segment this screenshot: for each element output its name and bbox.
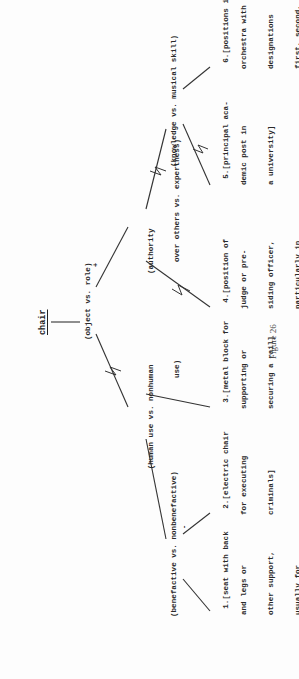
leaf-4: 4.[position of judge or pre- siding offi… bbox=[213, 239, 299, 321]
leaf-line: for executing bbox=[240, 431, 249, 527]
leaf-line: [positions in bbox=[222, 0, 230, 54]
edge-nonbenefactive bbox=[183, 513, 210, 534]
leaf-number: 2. bbox=[222, 500, 230, 509]
leaf-line: supporting or bbox=[240, 321, 249, 421]
nonbenefactive-minus-marker: - bbox=[180, 525, 189, 529]
leaf-line: a university] bbox=[267, 101, 276, 197]
leaf-number: 4. bbox=[222, 294, 230, 303]
distinction-benefactive: (benefactive vs. nonbenefactive) bbox=[170, 471, 179, 617]
leaf-line: usually for bbox=[294, 531, 299, 627]
distinction-authority-vs-expertness: (authority over others vs. expertness) bbox=[130, 139, 199, 274]
edge-benefactive bbox=[183, 579, 210, 611]
leaf-line: criminals] bbox=[267, 431, 276, 527]
leaf-line: judge or pre- bbox=[240, 239, 249, 321]
leaf-6: 6.[positions in orchestra with designati… bbox=[213, 0, 299, 81]
leaf-line: demic post in bbox=[240, 101, 249, 197]
leaf-number: 6. bbox=[222, 54, 230, 63]
leaf-line: and legs or bbox=[240, 531, 249, 627]
leaf-line: [electric chair bbox=[222, 431, 230, 499]
leaf-number: 5. bbox=[222, 170, 230, 179]
leaf-line: other support, bbox=[267, 531, 276, 627]
edge-musical bbox=[183, 67, 210, 89]
leaf-line: orchestra with bbox=[240, 0, 249, 81]
leaf-line: siding officer, bbox=[267, 239, 276, 321]
role-plus-marker: + bbox=[92, 263, 101, 267]
rotated-page: chair (object vs. role) + (human use vs.… bbox=[0, 0, 299, 679]
cross-mark-object bbox=[105, 367, 121, 375]
leaf-line: [seat with back bbox=[222, 531, 230, 599]
leaf-line: [position of bbox=[222, 239, 230, 294]
leaf-2: 2.[electric chair for executing criminal… bbox=[213, 431, 294, 527]
leaf-3: 3.[metal block for supporting or securin… bbox=[213, 321, 294, 421]
distinction-line: (authority bbox=[147, 139, 156, 274]
leaf-line: designations bbox=[267, 0, 276, 81]
leaf-line: [principal aca- bbox=[222, 101, 230, 169]
cross-mark-authority bbox=[172, 285, 190, 295]
leaf-5: 5.[principal aca- demic post in a univer… bbox=[213, 101, 294, 197]
edge-role bbox=[96, 227, 128, 287]
distinction-object-vs-role: (object vs. role) bbox=[84, 263, 93, 340]
leaf-line: particularly in bbox=[294, 239, 299, 321]
leaf-line: [metal block for bbox=[222, 321, 230, 394]
figure-caption: Figure 26 bbox=[268, 324, 278, 359]
distinction-knowledge-vs-musical: (knowledge vs. musical skill) bbox=[170, 35, 179, 167]
distinction-line: (human use vs. nonhuman bbox=[147, 360, 156, 474]
distinction-human-vs-nonhuman: (human use vs. nonhuman use) bbox=[130, 360, 199, 474]
root-node: chair bbox=[38, 309, 48, 335]
leaf-line: first, second, bbox=[294, 0, 299, 81]
leaf-1: 1.[seat with back and legs or other supp… bbox=[213, 531, 299, 627]
distinction-line: use) bbox=[173, 360, 182, 474]
leaf-number: 3. bbox=[222, 394, 230, 403]
leaf-number: 1. bbox=[222, 600, 230, 609]
